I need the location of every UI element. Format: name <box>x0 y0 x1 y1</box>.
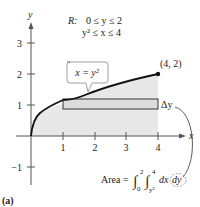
delta-y-label: Δy <box>161 99 172 110</box>
integrand-dx: dx <box>159 174 169 185</box>
inner-lower-limit: y² <box>149 186 155 194</box>
area-prefix: Area = <box>101 174 129 185</box>
y-tick-label: 3 <box>17 38 22 49</box>
area-formula: Area = ∫ 2 0 ∫ 4 y² dx dy <box>101 168 186 194</box>
x-tick-label: 4 <box>156 142 161 153</box>
curve-label-callout: x = y² <box>67 62 108 92</box>
circled-dy: dy <box>172 174 182 185</box>
representative-rectangle <box>63 99 158 109</box>
x-tick-label: 2 <box>93 142 98 153</box>
region-diagram: 1 2 3 4 3 2 1 −1 x y (4, 2) Δy x = y² R:… <box>0 0 200 207</box>
outer-lower-limit: 0 <box>137 185 141 193</box>
y-tick-label: 2 <box>17 69 22 80</box>
endpoint-dot <box>156 72 160 76</box>
x-axis-arrow-icon <box>179 134 186 139</box>
y-axis-label: y <box>27 9 33 20</box>
region-name: R: <box>67 15 77 26</box>
region-line1: 0 ≤ y ≤ 2 <box>86 15 122 26</box>
outer-upper-limit: 2 <box>140 168 144 176</box>
curve-label: x = y² <box>74 67 100 78</box>
y-tick-label: 1 <box>17 100 22 111</box>
inner-upper-limit: 4 <box>152 168 156 176</box>
figure-label: (a) <box>2 195 14 207</box>
leader-arc <box>175 107 192 177</box>
region-line2: y² ≤ x ≤ 4 <box>82 27 121 38</box>
x-tick-label: 3 <box>124 142 129 153</box>
y-axis-arrow-icon <box>29 22 34 29</box>
y-tick-label: −1 <box>11 162 22 173</box>
x-tick-label: 1 <box>61 142 66 153</box>
point-label: (4, 2) <box>160 58 182 70</box>
